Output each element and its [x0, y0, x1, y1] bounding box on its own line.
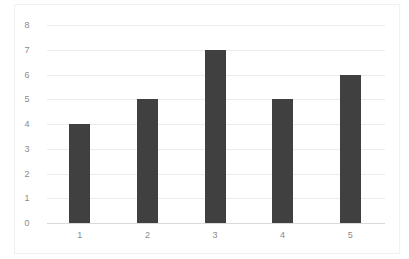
x-tick-label: 2	[137, 230, 157, 240]
y-tick-label: 4	[20, 119, 34, 129]
bar-3[interactable]	[205, 50, 226, 223]
plot-area	[47, 25, 385, 223]
y-tick-label: 7	[20, 45, 34, 55]
x-tick-label: 1	[70, 230, 90, 240]
y-tick-label: 2	[20, 169, 34, 179]
y-tick-label: 8	[20, 20, 34, 30]
bar-4[interactable]	[272, 99, 293, 223]
bar-5[interactable]	[340, 75, 361, 224]
x-axis-line	[47, 223, 385, 224]
x-tick-label: 3	[205, 230, 225, 240]
y-tick-label: 6	[20, 70, 34, 80]
y-tick-label: 1	[20, 193, 34, 203]
bar-1[interactable]	[69, 124, 90, 223]
y-tick-label: 3	[20, 144, 34, 154]
bar-2[interactable]	[137, 99, 158, 223]
gridline	[47, 25, 385, 26]
y-tick-label: 0	[20, 218, 34, 228]
y-tick-label: 5	[20, 94, 34, 104]
x-tick-label: 4	[273, 230, 293, 240]
x-tick-label: 5	[340, 230, 360, 240]
